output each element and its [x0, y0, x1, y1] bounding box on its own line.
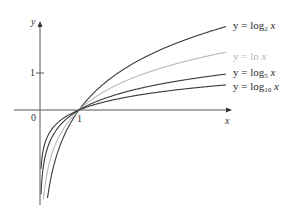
x-axis-label: x [225, 116, 229, 126]
x-tick-label-1: 1 [77, 114, 82, 124]
legend-log2: y = log2 x [233, 20, 275, 31]
x-axis-arrow-icon [226, 108, 232, 113]
y-tick-label-1: 1 [30, 68, 35, 78]
log-graph [0, 0, 295, 209]
origin-label: 0 [31, 113, 36, 123]
curve-2 [41, 74, 226, 194]
legend-ln: y = ln x [233, 51, 266, 62]
legend-log5: y = log5 x [233, 67, 275, 78]
legend-log10: y = log10 x [233, 81, 279, 92]
y-axis-arrow-icon [38, 21, 43, 27]
curve-1 [44, 52, 227, 199]
y-axis-label: y [31, 17, 35, 27]
curves [41, 27, 226, 200]
